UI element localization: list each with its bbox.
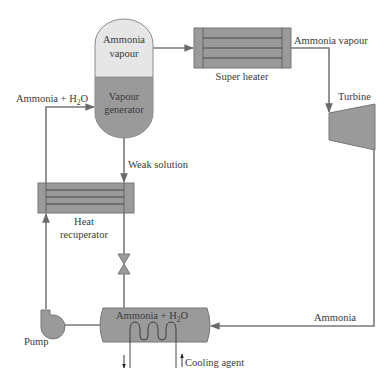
generator-top-label-line2: vapour [109,48,139,59]
recuperator-label-line2: recuperator [60,229,108,240]
super-heater-label: Super heater [216,71,269,82]
pipe-superheater-to-turbine [291,48,329,112]
expansion-valve-icon [118,254,130,274]
turbine-label: Turbine [338,91,371,102]
flow-label-cooling-agent: Cooling agent [185,357,244,368]
generator-bottom-label-line2: generator [104,104,144,115]
flow-label-ammonia-vapour: Ammonia vapour [294,35,368,46]
flow-label-weak-solution: Weak solution [128,159,189,170]
pipe-strong-solution-to-generator [46,107,94,183]
recuperator-label-line1: Heat [74,216,94,227]
pump-icon: Pump [24,310,65,347]
flow-label-ammonia: Ammonia [314,312,356,323]
turbine: Turbine [329,91,375,150]
generator-bottom-label-line1: Vapour [109,91,140,102]
flow-label-ammonia-h2o: Ammonia + H2O [16,93,89,107]
vapour-generator: Ammonia vapour Vapour generator [95,15,153,142]
pump-label: Pump [24,336,49,347]
pipe-turbine-to-absorber [211,150,374,326]
ammonia-cycle-diagram: Ammonia vapour Vapour generator Super he… [0,0,390,387]
super-heater: Super heater [194,28,291,82]
generator-top-label-line1: Ammonia [103,34,145,45]
heat-recuperator: Heat recuperator [38,183,134,240]
